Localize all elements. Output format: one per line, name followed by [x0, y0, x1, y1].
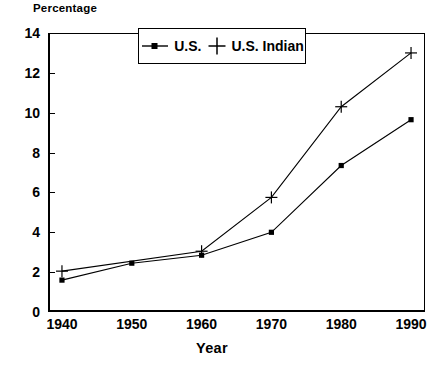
data-point-marker-square [339, 163, 344, 168]
data-point-marker-square [59, 278, 64, 283]
plus-marker-icon [207, 36, 227, 56]
data-point-marker-plus [405, 47, 417, 59]
series-line [62, 120, 411, 280]
legend-label-us: U.S. [174, 38, 201, 54]
line-chart: Percentage 02468101214 19401950196019701… [0, 0, 436, 370]
x-axis-title: Year [0, 340, 436, 356]
x-axis-title-text: Year [196, 340, 228, 356]
square-marker-icon [140, 39, 170, 53]
data-point-marker-plus [56, 265, 68, 277]
chart-legend: U.S. U.S. Indian [138, 28, 306, 64]
legend-item-us: U.S. [140, 38, 201, 54]
data-point-marker-plus [265, 191, 277, 203]
data-point-marker-square [269, 230, 274, 235]
legend-item-us-indian: U.S. Indian [207, 36, 303, 56]
series-line [62, 53, 411, 271]
data-point-marker-plus [335, 101, 347, 113]
data-point-marker-square [408, 117, 413, 122]
legend-label-us-indian: U.S. Indian [231, 38, 303, 54]
